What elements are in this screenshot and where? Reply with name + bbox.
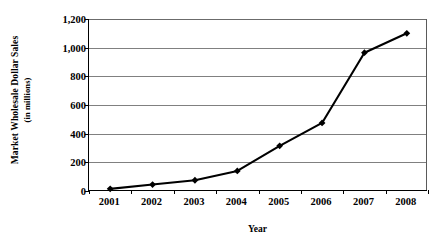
series-line: [89, 19, 428, 191]
x-tick-label: 2005: [268, 196, 289, 207]
y-axis-title-text: Market Wholesale Dollar Sales (in millio…: [9, 36, 33, 164]
y-tick-label: 400: [46, 128, 86, 139]
data-point-marker: [403, 30, 410, 37]
y-axis-title-line-1: Market Wholesale Dollar Sales: [10, 36, 20, 164]
y-tick-label: 1,000: [46, 42, 86, 53]
data-point-marker: [149, 181, 156, 188]
x-tick-mark: [428, 190, 429, 194]
x-tick-label: 2006: [311, 196, 332, 207]
y-tick-label: 200: [46, 157, 86, 168]
data-point-marker: [107, 185, 114, 192]
plot-area: [88, 19, 427, 191]
y-axis-title-line-2: (in millions): [22, 78, 32, 123]
x-tick-label: 2001: [99, 196, 120, 207]
data-point-marker: [192, 177, 199, 184]
x-tick-label: 2002: [141, 196, 162, 207]
x-axis-tick-labels: 20012002200320042005200620072008: [88, 196, 427, 214]
x-axis-title: Year: [88, 224, 427, 234]
y-tick-label: 0: [46, 186, 86, 197]
y-tick-label: 1,200: [46, 14, 86, 25]
chart-figure: Market Wholesale Dollar Sales (in millio…: [0, 0, 447, 250]
y-axis-title: Market Wholesale Dollar Sales (in millio…: [0, 0, 42, 200]
y-tick-label: 800: [46, 71, 86, 82]
series-polyline: [110, 33, 407, 189]
x-tick-label: 2008: [395, 196, 416, 207]
y-tick-label: 600: [46, 100, 86, 111]
x-tick-label: 2004: [226, 196, 247, 207]
x-tick-label: 2007: [353, 196, 374, 207]
y-axis-tick-labels: 02004006008001,0001,200: [42, 0, 86, 250]
x-tick-label: 2003: [183, 196, 204, 207]
